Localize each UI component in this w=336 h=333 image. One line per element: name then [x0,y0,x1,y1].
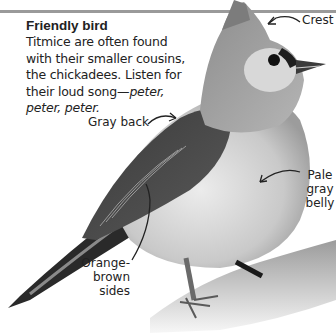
caption-title: Friendly bird [26,18,191,34]
caption-box: Friendly bird Titmice are often found wi… [26,18,191,117]
caption-body: Titmice are often found with their small… [26,34,191,117]
label-crest: Crest [302,13,333,27]
label-pale-gray-belly: Pale gray belly [304,168,336,210]
label-gray-back: Gray back [88,115,149,129]
eye [268,54,280,66]
label-orange-brown-sides: Orange-brown sides [64,256,130,298]
